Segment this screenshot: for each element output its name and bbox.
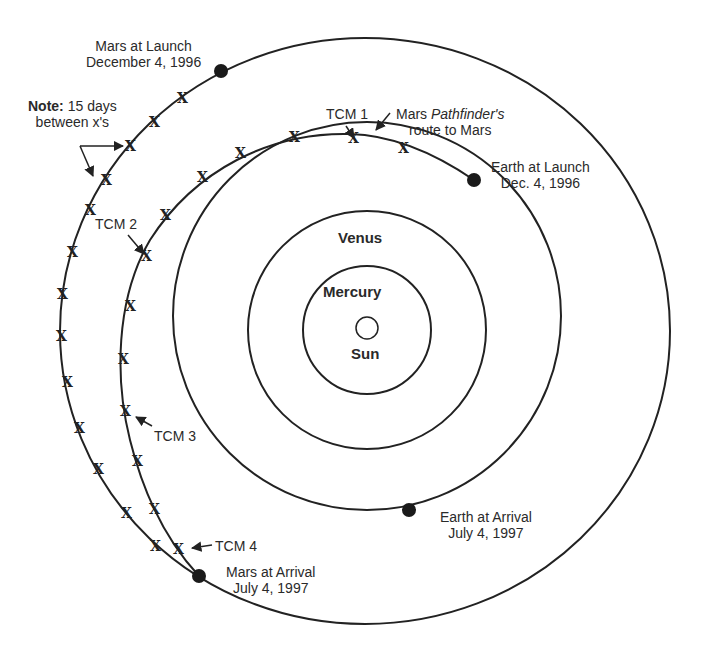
tcm2-label: TCM 2 [95,216,137,232]
svg-text:X: X [149,114,160,130]
svg-text:X: X [118,351,129,367]
mars-launch-label: Mars at Launch December 4, 1996 [86,38,201,70]
venus-label: Venus [338,230,382,246]
svg-text:X: X [120,403,131,419]
note-bold: Note: [28,98,64,114]
svg-text:X: X [56,328,67,344]
svg-text:X: X [149,501,160,517]
tcm3-arrow [136,417,152,426]
svg-text:X: X [150,538,161,554]
svg-text:X: X [125,138,136,154]
svg-text:X: X [101,172,112,188]
route-markers: X X X X X X X X X X X X X [118,129,409,557]
svg-text:X: X [289,129,300,145]
svg-text:X: X [57,286,68,302]
mars-orbit-markers: X X X X X X X X X X X X X [56,90,188,554]
sun [356,317,378,339]
svg-text:X: X [177,90,188,106]
svg-text:X: X [235,145,246,161]
tcm1-label: TCM 1 [326,106,368,122]
note-arrow-2 [80,146,93,176]
sun-label: Sun [351,346,379,362]
mercury-label: Mercury [323,284,381,300]
venus-orbit [248,211,486,449]
tcm2-arrow [128,235,144,254]
route-label: Mars Pathfinder's route to Mars [396,106,505,138]
tcm4-arrow [192,545,212,548]
earth-launch-label: Earth at Launch Dec. 4, 1996 [491,159,590,191]
earth-at-arrival-dot [402,503,416,517]
mars-at-arrival-dot [192,569,206,583]
svg-text:X: X [121,505,132,521]
svg-text:X: X [125,298,136,314]
pathfinder-route [120,134,474,576]
svg-text:X: X [197,169,208,185]
svg-text:X: X [132,453,143,469]
svg-text:X: X [74,420,85,436]
tcm3-label: TCM 3 [154,428,196,444]
svg-text:X: X [62,374,73,390]
svg-text:X: X [173,541,184,557]
svg-text:X: X [160,207,171,223]
note-label: Note: 15 days between x's [28,98,117,130]
earth-at-launch-dot [467,173,481,187]
mars-at-launch-dot [214,64,228,78]
tcm4-label: TCM 4 [215,538,257,554]
mars-arrival-label: Mars at Arrival July 4, 1997 [226,564,315,596]
svg-text:X: X [67,244,78,260]
svg-text:X: X [141,248,152,264]
svg-text:X: X [398,140,409,156]
earth-arrival-label: Earth at Arrival July 4, 1997 [440,509,532,541]
svg-text:X: X [93,461,104,477]
